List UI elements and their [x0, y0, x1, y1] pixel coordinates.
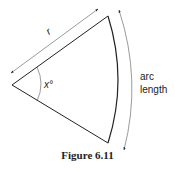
sector-shape — [12, 16, 118, 143]
angle-label: x° — [43, 79, 53, 90]
angle-arc — [37, 67, 41, 101]
arc-length-label-line1: arc — [140, 71, 154, 82]
radius-dimension-arrow — [11, 9, 98, 73]
arc-length-label-line2: length — [140, 84, 167, 95]
figure-caption: Figure 6.11 — [0, 149, 175, 161]
radius-label: r — [44, 25, 54, 36]
sector-diagram: r x° arc length — [0, 0, 175, 172]
arc-length-dimension-arrow — [119, 10, 132, 150]
